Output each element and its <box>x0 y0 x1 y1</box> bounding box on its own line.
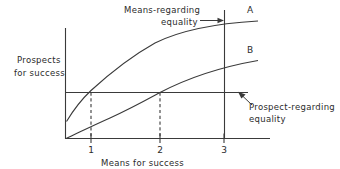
means-annotation-arrow-icon <box>200 18 224 23</box>
x-tick-label-3: 3 <box>221 145 227 155</box>
prospect-annotation-line2: equality <box>249 114 286 124</box>
curve-a <box>67 21 259 122</box>
y-axis-label-line1: Prospects <box>17 55 61 65</box>
prospect-annotation-line1: Prospect-regarding <box>249 102 335 112</box>
curve-b-label: B <box>247 45 253 55</box>
chart-svg: A B 1 2 3 Prospects for success Means fo… <box>0 0 340 169</box>
means-annotation-line1: Means-regarding <box>124 5 200 15</box>
prospect-annotation-arrow-icon <box>238 92 252 105</box>
means-annotation-line2: equality <box>161 17 198 27</box>
figure-canvas: A B 1 2 3 Prospects for success Means fo… <box>0 0 340 169</box>
x-tick-label-1: 1 <box>88 145 94 155</box>
x-axis-label: Means for success <box>101 158 184 168</box>
x-tick-label-2: 2 <box>157 145 163 155</box>
y-axis-label-line2: for success <box>14 68 65 78</box>
curve-a-label: A <box>247 5 254 15</box>
curve-b <box>66 61 258 139</box>
